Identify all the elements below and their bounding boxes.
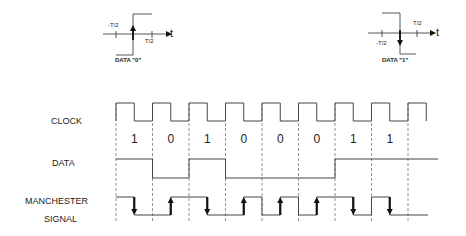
bit-value: 1	[124, 132, 144, 146]
data-waveform	[116, 159, 438, 178]
manchester-waveform	[116, 197, 428, 215]
legend1-waveform	[382, 13, 416, 54]
legend0-pos-label: T/2	[145, 38, 154, 44]
legend1-pos-label: T/2	[413, 20, 422, 26]
data-label: DATA	[52, 158, 75, 168]
signal-label: SIGNAL	[44, 214, 77, 224]
arrow-down-icon	[350, 209, 356, 215]
legend1-neg-label: -T/2	[376, 40, 387, 46]
arrow-up-icon	[241, 197, 247, 203]
arrow-up-icon	[168, 197, 174, 203]
legend0-caption: DATA "0"	[115, 57, 141, 63]
arrow-down-icon	[131, 209, 137, 215]
bit-value: 1	[380, 132, 400, 146]
manchester-encoding-diagram: -T/2 T/2 t DATA "0" T/2 -T/2 t DATA "1" …	[0, 0, 466, 236]
legend0-axis-label: t	[170, 27, 173, 39]
legend0-arrow-up-icon	[130, 25, 136, 31]
legend1-arrow-down-icon	[397, 40, 403, 46]
legend0-neg-label: -T/2	[108, 22, 119, 28]
clock-label: CLOCK	[51, 116, 82, 126]
bit-value: 0	[270, 132, 290, 146]
bit-value: 0	[161, 132, 181, 146]
bit-value: 0	[307, 132, 327, 146]
arrow-down-icon	[387, 209, 393, 215]
bit-value: 0	[234, 132, 254, 146]
clock-waveform	[116, 103, 426, 121]
legend0-waveform	[116, 14, 152, 55]
legend1-caption: DATA "1"	[382, 57, 408, 63]
bit-value: 1	[343, 132, 363, 146]
legend1-axis-label: t	[436, 26, 439, 38]
manchester-label: MANCHESTER	[25, 196, 88, 206]
arrow-down-icon	[204, 209, 210, 215]
bit-value: 1	[197, 132, 217, 146]
arrow-up-icon	[314, 197, 320, 203]
arrow-up-icon	[277, 197, 283, 203]
